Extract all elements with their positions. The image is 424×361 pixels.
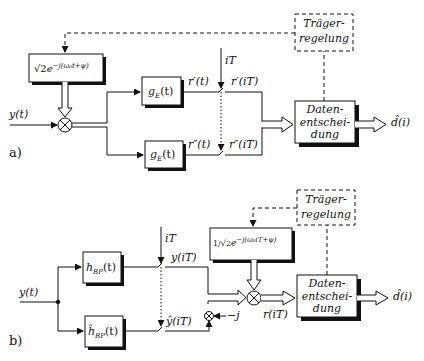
carrier-feedback-line-b — [253, 208, 297, 226]
sampled-lower-label-a: r″(iT) — [229, 139, 258, 150]
sampler-label-b: iT — [165, 233, 176, 244]
output-double-arrow-b — [357, 291, 388, 305]
mixer-output-label-b: r(iT) — [263, 309, 288, 320]
filter-ge-lower-label: gE(t) — [150, 149, 175, 163]
sampler-label-a: iT — [225, 55, 236, 66]
carrier-control-label-a: Träger-regelung — [296, 17, 352, 47]
input-label-b: y(t) — [19, 287, 38, 298]
decision-label-b: Daten-entschei-dung — [297, 278, 357, 316]
sampled-lower-label-b: ŷ(iT) — [166, 316, 192, 327]
output-double-arrow-a — [355, 117, 386, 132]
panel-label-b: b) — [9, 333, 22, 348]
carrier-control-label-b: Träger-regelung — [298, 193, 354, 223]
j-multiplier-label: −j — [227, 310, 240, 321]
input-label-a: y(t) — [9, 109, 28, 120]
signal-upper-label-a: r′(t) — [188, 76, 209, 87]
filter-hbp-lower-label: ĥBP(t) — [88, 326, 118, 340]
oscillator-label-b: 1/√2e−j(ω₀iT+ψ) — [213, 237, 277, 248]
decision-label-a: Daten-entschei-dung — [295, 104, 355, 142]
signal-lower-label-a: r″(t) — [188, 139, 210, 150]
filter-hbp-upper-label: hBP(t) — [86, 262, 116, 276]
carrier-feedback-line-a — [65, 33, 295, 52]
sampled-upper-label-a: r′(iT) — [231, 76, 258, 87]
panel-label-a: a) — [9, 145, 22, 160]
sampled-upper-label-b: y(iT) — [171, 252, 197, 263]
osc-to-mixer-double-arrow-a — [58, 82, 72, 117]
filter-ge-upper-label: gE(t) — [148, 86, 173, 100]
output-label-b: d̂(i) — [393, 291, 412, 302]
block-diagram-canvas — [0, 0, 424, 361]
oscillator-label-a: √2e−j(ω₀t+ψ) — [34, 63, 89, 74]
output-label-a: d̂(i) — [391, 117, 410, 128]
